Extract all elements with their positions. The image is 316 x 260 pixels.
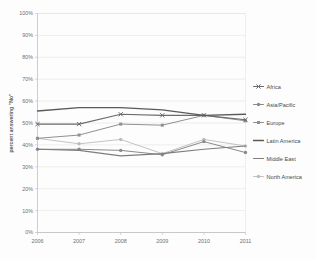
legend-label-latin-america: Latin America: [267, 138, 302, 144]
legend-label-north-america: North America: [267, 174, 303, 180]
legend-swatch-asia-pacific-circle-marker: [257, 103, 260, 106]
y-tick-label: 70%: [22, 76, 33, 82]
series-line-europe: [38, 115, 246, 138]
legend-item-africa[interactable]: Africa: [254, 84, 282, 90]
x-tick-label: 2010: [198, 238, 210, 244]
y-tick-label: 40%: [22, 142, 33, 148]
series-europe-square-marker: [36, 137, 39, 140]
series-north-america-circle-marker: [119, 138, 122, 141]
x-tick-label: 2007: [73, 238, 85, 244]
x-tick-label: 2009: [156, 238, 168, 244]
y-tick-label: 80%: [22, 54, 33, 60]
legend-item-latin-america[interactable]: Latin America: [254, 138, 302, 144]
y-axis-title: percent answering "No": [8, 93, 14, 153]
series-latin-america: [38, 108, 246, 116]
line-chart: 0%10%20%30%40%50%60%70%80%90%100%percent…: [0, 0, 316, 260]
y-tick-label: 20%: [22, 186, 33, 192]
chart-canvas: 0%10%20%30%40%50%60%70%80%90%100%percent…: [0, 0, 316, 260]
series-line-north-america: [38, 138, 246, 153]
gridlines: [38, 14, 246, 233]
legend-item-europe[interactable]: Europe: [254, 120, 285, 126]
series-north-america-circle-marker: [77, 142, 80, 145]
x-tick-label: 2008: [115, 238, 127, 244]
legend-item-middle-east[interactable]: Middle East: [254, 156, 297, 162]
y-axis: 0%10%20%30%40%50%60%70%80%90%100%: [19, 10, 37, 235]
y-axis-title-text: percent answering "No": [8, 93, 14, 153]
series-europe-square-marker: [119, 123, 122, 126]
y-tick-label: 30%: [22, 164, 33, 170]
y-tick-label: 100%: [19, 10, 33, 16]
series-europe: [36, 114, 247, 140]
legend-swatch-north-america-circle-marker: [257, 175, 260, 178]
y-tick-label: 0%: [25, 229, 33, 235]
series-asia-pacific-circle-marker: [119, 149, 122, 152]
series-line-latin-america: [38, 108, 246, 116]
legend-label-europe: Europe: [267, 120, 285, 126]
y-tick-label: 10%: [22, 208, 33, 214]
series-asia-pacific-circle-marker: [202, 140, 205, 143]
legend-item-asia-pacific[interactable]: Asia/Pacific: [254, 102, 296, 108]
legend-swatch-europe-square-marker: [257, 121, 260, 124]
series-asia-pacific-circle-marker: [244, 151, 247, 154]
x-axis: 200620072008200920102011: [32, 233, 252, 245]
series-europe-square-marker: [78, 134, 81, 137]
legend-label-asia-pacific: Asia/Pacific: [267, 102, 296, 108]
y-tick-label: 90%: [22, 32, 33, 38]
series-africa: [35, 112, 247, 126]
y-tick-label: 50%: [22, 120, 33, 126]
x-tick-label: 2006: [32, 238, 44, 244]
y-tick-label: 60%: [22, 98, 33, 104]
series-middle-east: [38, 146, 246, 156]
x-tick-label: 2011: [240, 238, 252, 244]
legend-item-north-america[interactable]: North America: [254, 174, 303, 180]
series-europe-square-marker: [161, 124, 164, 127]
series-line-middle-east: [38, 146, 246, 156]
legend: AfricaAsia/PacificEuropeLatin AmericaMid…: [254, 84, 303, 180]
legend-label-middle-east: Middle East: [267, 156, 297, 162]
legend-label-africa: Africa: [267, 84, 282, 90]
